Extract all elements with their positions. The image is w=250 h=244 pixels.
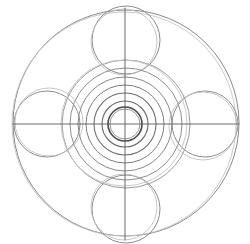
- drawing-canvas: Concentric circle and four-petal geometr…: [0, 0, 250, 244]
- geometric-construction-figure: Concentric circle and four-petal geometr…: [0, 0, 250, 244]
